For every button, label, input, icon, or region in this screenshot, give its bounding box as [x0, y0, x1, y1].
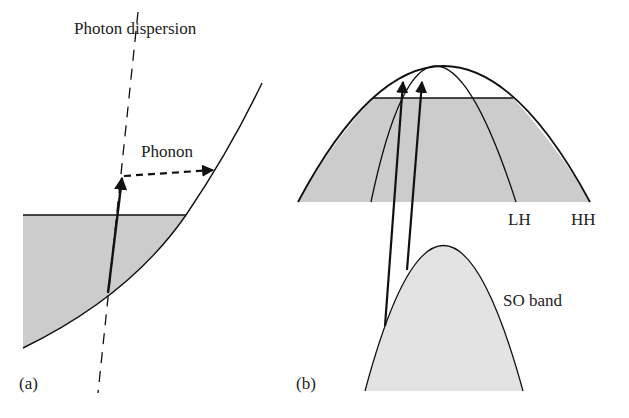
figure-svg: Photon dispersion Phonon (a) LH HH SO ba… — [0, 0, 629, 418]
phonon-arrow — [124, 170, 213, 176]
panel-b-tag: (b) — [296, 374, 316, 393]
hh-label: HH — [571, 210, 596, 229]
band-diagram-figure: Photon dispersion Phonon (a) LH HH SO ba… — [0, 0, 629, 418]
filled-states-region-b — [298, 98, 590, 202]
panel-a-tag: (a) — [19, 374, 38, 393]
lh-label: LH — [508, 210, 531, 229]
so-band-label: SO band — [503, 291, 563, 310]
panel-b: LH HH SO band (b) — [296, 66, 596, 393]
photon-dispersion-label: Photon dispersion — [74, 19, 197, 38]
filled-states-region-a — [23, 215, 186, 348]
phonon-label: Phonon — [141, 142, 193, 161]
panel-a: Photon dispersion Phonon (a) — [19, 12, 262, 393]
